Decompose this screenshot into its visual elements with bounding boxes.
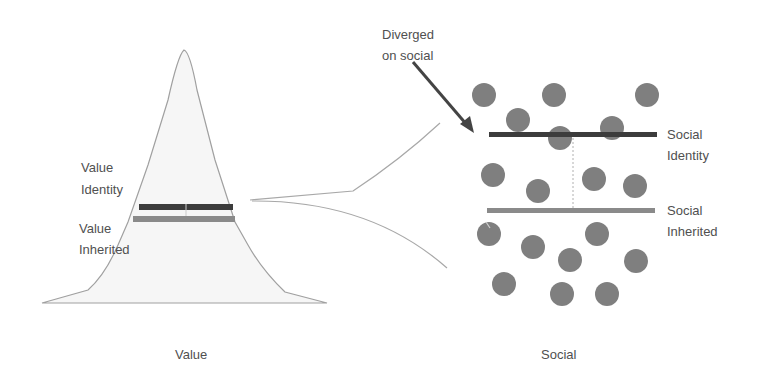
dot [624,249,648,273]
social-identity-label-line2: Identity [667,145,709,166]
dot [521,235,545,259]
divergence-lower-line [252,201,447,268]
value-caption: Value [175,344,207,365]
social-inherited-label-line1: Social [667,200,702,221]
social-inherited-label-line2: Inherited [667,221,718,242]
dot [548,126,572,150]
value-inherited-label-line1: Value [79,218,111,239]
value-identity-label-line1: Value [81,157,113,178]
value-identity-label-line2: Identity [81,179,123,200]
arrow-icon [413,62,474,133]
social-identity-label-line1: Social [667,124,702,145]
annotation-line2: on social [382,45,433,66]
dot [595,282,619,306]
value-inherited-bar [133,216,235,222]
dot [623,174,647,198]
annotation-line1: Diverged [382,24,434,45]
dot [635,83,659,107]
social-dots [472,83,659,306]
dot [582,167,606,191]
dot [542,83,566,107]
dot [472,83,496,107]
social-caption: Social [541,344,576,365]
divergence-upper-line [250,123,440,200]
social-inherited-bar [487,208,655,213]
dot [481,163,505,187]
dot [558,248,582,272]
dot [585,222,609,246]
dot [550,282,574,306]
dot [526,179,550,203]
dot [506,108,530,132]
dot [492,272,516,296]
value-inherited-label-line2: Inherited [79,239,130,260]
social-identity-bar [489,132,657,137]
